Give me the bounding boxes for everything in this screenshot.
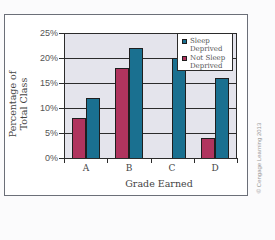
bar-c-sleep-deprived xyxy=(172,58,186,158)
y-tick-label: 20% xyxy=(28,53,58,63)
x-tick-label: C xyxy=(162,163,182,173)
bar-d-sleep-deprived xyxy=(215,78,229,158)
x-tick xyxy=(151,158,152,163)
x-tick xyxy=(194,158,195,163)
bar-b-not-sleep-deprived xyxy=(115,68,129,158)
y-tick-label: 15% xyxy=(28,78,58,88)
x-tick xyxy=(237,158,238,163)
x-axis xyxy=(60,158,238,159)
x-axis-title: Grade Earned xyxy=(114,178,204,189)
legend-label: Deprived xyxy=(190,62,225,70)
y-tick-label: 10% xyxy=(28,103,58,113)
y-tick xyxy=(59,133,65,134)
y-tick xyxy=(59,33,65,34)
gridline xyxy=(64,83,236,84)
y-axis-title-line-2: Total Class xyxy=(18,71,29,138)
y-axis-title: Percentage of Total Class xyxy=(7,71,29,138)
legend-swatch-not-sleep-deprived xyxy=(182,56,187,61)
y-tick xyxy=(59,58,65,59)
y-axis-title-line-1: Percentage of xyxy=(7,71,18,138)
legend-swatch-sleep-deprived xyxy=(182,39,187,44)
x-tick xyxy=(107,158,108,163)
y-tick-label: 25% xyxy=(28,28,58,38)
legend: Sleep Deprived Not Sleep Deprived xyxy=(177,33,233,71)
bar-b-sleep-deprived xyxy=(129,48,143,158)
x-tick-label: B xyxy=(119,163,139,173)
x-tick-label: A xyxy=(76,163,96,173)
legend-label: Deprived xyxy=(190,45,222,53)
y-axis xyxy=(64,33,65,159)
y-tick xyxy=(59,83,65,84)
bar-a-not-sleep-deprived xyxy=(72,118,86,158)
legend-label: Not Sleep xyxy=(190,54,225,62)
x-tick-label: D xyxy=(205,163,225,173)
legend-label: Sleep xyxy=(190,37,222,45)
bar-d-not-sleep-deprived xyxy=(201,138,215,158)
y-tick-label: 5% xyxy=(28,128,58,138)
copyright-credit: © Cengage Learning 2013 xyxy=(256,123,262,193)
y-tick-label: 0% xyxy=(28,153,58,163)
bar-a-sleep-deprived xyxy=(86,98,100,158)
y-tick xyxy=(59,108,65,109)
x-tick xyxy=(64,158,65,163)
